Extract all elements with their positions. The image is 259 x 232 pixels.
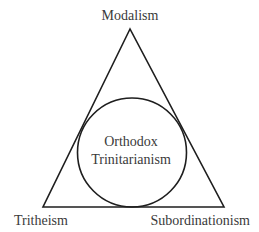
label-modalism: Modalism xyxy=(102,8,159,23)
trinity-diagram: Modalism Orthodox Trinitarianism Trithei… xyxy=(0,0,259,232)
label-tritheism: Tritheism xyxy=(14,213,68,228)
label-trinitarianism: Trinitarianism xyxy=(91,152,171,167)
label-subordinationism: Subordinationism xyxy=(150,213,250,228)
triangle xyxy=(43,29,224,207)
label-orthodox: Orthodox xyxy=(104,134,158,149)
